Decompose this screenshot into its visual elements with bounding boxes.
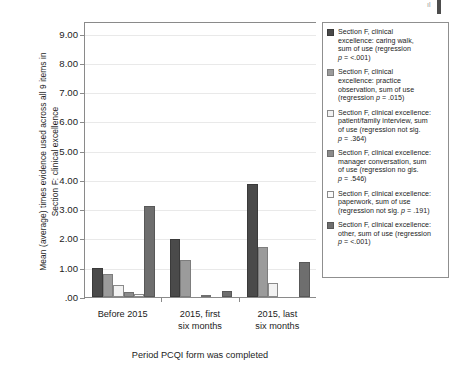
y-axis-tick-label: 3.00 [59, 205, 78, 215]
y-axis-tick [80, 298, 85, 299]
legend-swatch-icon [327, 191, 334, 198]
y-axis-tick-label: 7.00 [59, 88, 78, 98]
bar [268, 283, 278, 297]
y-axis-tick-label: .00 [65, 293, 78, 303]
scan-artifact-bar [437, 0, 441, 14]
legend-swatch-icon [327, 150, 334, 157]
y-axis-tick-label: 8.00 [59, 59, 78, 69]
bar [258, 247, 268, 297]
gridline [85, 269, 316, 270]
legend-item[interactable]: Section F, clinical excellence:other, su… [327, 221, 444, 247]
legend-label: Section F, clinical excellence:other, su… [338, 221, 431, 247]
legend-label: Section F, clinical excellence:manager c… [338, 149, 431, 183]
y-axis-tick-label: 6.00 [59, 118, 78, 128]
plot-area: .001.002.003.004.005.006.007.008.009.00 [84, 22, 316, 297]
y-axis-title: Mean (average) times evidence used acros… [38, 17, 61, 307]
legend-item[interactable]: Section F, clinical excellence:paperwork… [327, 190, 444, 216]
gridline [85, 122, 316, 123]
chart-legend: Section F, clinicalexcellence: caring wa… [322, 22, 449, 278]
y-axis-tick-label: 4.00 [59, 176, 78, 186]
legend-label: Section F, clinicalexcellence: practiceo… [338, 68, 414, 102]
y-axis-tick [80, 239, 85, 240]
legend-swatch-icon [327, 69, 334, 76]
gridline [85, 64, 316, 65]
y-axis-tick [80, 181, 85, 182]
x-axis-tick [239, 297, 240, 302]
bar [103, 274, 113, 297]
bar [247, 184, 257, 297]
legend-swatch-icon [327, 222, 334, 229]
legend-swatch-icon [327, 29, 334, 36]
y-axis-tick-label: 2.00 [59, 235, 78, 245]
gridline [85, 210, 316, 211]
y-axis-tick [80, 269, 85, 270]
y-axis-tick [80, 64, 85, 65]
x-axis-group-label: 2015, last six months [231, 309, 323, 332]
bar [144, 206, 154, 297]
scan-artifact-mark: ıl [427, 2, 432, 8]
y-axis-tick-label: 5.00 [59, 147, 78, 157]
gridline [85, 152, 316, 153]
y-axis-tick [80, 93, 85, 94]
y-axis-tick-label: 9.00 [59, 30, 78, 40]
y-axis-tick [80, 35, 85, 36]
legend-item[interactable]: Section F, clinical excellence:manager c… [327, 149, 444, 183]
x-axis-tick [161, 297, 162, 302]
legend-label: Section F, clinical excellence:patient/f… [338, 109, 431, 143]
y-axis-tick-label: 1.00 [59, 264, 78, 274]
plot-inner: .001.002.003.004.005.006.007.008.009.00 [85, 23, 316, 297]
gridline [85, 181, 316, 182]
y-axis-tick [80, 122, 85, 123]
y-axis-tick [80, 152, 85, 153]
x-axis-title: Period PCQI form was completed [84, 350, 316, 360]
bar [180, 260, 190, 297]
bar [170, 239, 180, 298]
x-axis-line: Before 20152015, first six months2015, l… [84, 297, 316, 298]
legend-label: Section F, clinicalexcellence: caring wa… [338, 28, 414, 62]
bar [299, 262, 309, 297]
legend-item[interactable]: Section F, clinicalexcellence: caring wa… [327, 28, 444, 62]
legend-item[interactable]: Section F, clinical excellence:patient/f… [327, 109, 444, 143]
legend-label: Section F, clinical excellence:paperwork… [338, 190, 431, 216]
legend-swatch-icon [327, 110, 334, 117]
gridline [85, 35, 316, 36]
legend-item[interactable]: Section F, clinicalexcellence: practiceo… [327, 68, 444, 102]
y-axis-tick [80, 210, 85, 211]
bar-chart-figure: Mean (average) times evidence used acros… [0, 0, 453, 377]
bar [113, 285, 123, 297]
bar [92, 268, 102, 297]
gridline [85, 239, 316, 240]
gridline [85, 93, 316, 94]
